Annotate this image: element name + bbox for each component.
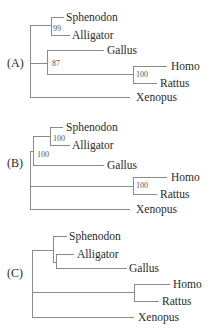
support-value: 100: [136, 181, 148, 190]
support-value: 100: [136, 70, 148, 79]
taxon-label: Gallus: [129, 262, 160, 274]
support-value: 87: [52, 59, 60, 68]
taxon-label: Sphenodon: [69, 230, 121, 243]
support-value: 100: [37, 150, 49, 159]
taxon-label: Homo: [171, 60, 200, 72]
taxon-label: Sphenodon: [66, 121, 118, 134]
taxon-label: Homo: [171, 171, 200, 183]
taxon-label: Alligator: [72, 29, 114, 42]
taxon-label: Xenopus: [136, 203, 177, 216]
taxon-label: Xenopus: [136, 91, 177, 104]
taxon-label: Rattus: [162, 295, 192, 307]
taxon-label: Homo: [173, 278, 202, 290]
taxon-label: Gallus: [107, 159, 138, 171]
taxon-label: Sphenodon: [66, 11, 118, 24]
taxon-label: Rattus: [160, 77, 190, 89]
tree-panel-a: (A) 99 Sphenodon Alligator 87 Gallus 100…: [7, 11, 200, 104]
taxon-label: Alligator: [72, 139, 114, 152]
phylogeny-figure: (A) 99 Sphenodon Alligator 87 Gallus 100…: [0, 0, 212, 330]
taxon-label: Rattus: [160, 188, 190, 200]
support-value: 99: [53, 24, 61, 33]
taxon-label: Xenopus: [138, 311, 179, 324]
panel-label-a: (A): [7, 56, 24, 70]
taxon-label: Alligator: [77, 248, 119, 261]
panel-label-c: (C): [7, 266, 23, 280]
tree-panel-c: (C) Sphenodon Alligator Gallus Homo Ratt…: [7, 230, 202, 324]
support-value: 100: [53, 134, 65, 143]
taxon-label: Gallus: [107, 44, 138, 56]
panel-label-b: (B): [7, 156, 23, 170]
tree-panel-b: (B) 100 100 Sphenodon Alligator Gallus 1…: [7, 121, 200, 216]
